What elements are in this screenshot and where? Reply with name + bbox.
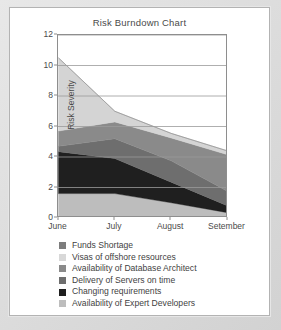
y-tick-mark (54, 125, 57, 126)
x-tick-mark (113, 217, 114, 220)
chart-card: Risk Burndown Chart Risk Severity 024681… (9, 7, 270, 316)
legend-item[interactable]: Availability of Database Architect (59, 263, 259, 275)
legend-swatch-icon (59, 254, 66, 261)
plot-area: Risk Severity 024681012 JuneJulyAugustSe… (57, 34, 227, 217)
plot-frame (57, 34, 227, 217)
y-tick-mark (54, 34, 57, 35)
y-tick-mark (54, 95, 57, 96)
legend-swatch-icon (59, 277, 66, 284)
legend-swatch-icon (59, 265, 66, 272)
y-tick-mark (54, 64, 57, 65)
legend-item-label: Availability of Expert Developers (72, 298, 195, 310)
legend-item[interactable]: Availability of Expert Developers (59, 298, 259, 310)
legend-item-label: Availability of Database Architect (72, 263, 197, 275)
legend-item[interactable]: Delivery of Servers on time (59, 275, 259, 287)
y-axis-label: Risk Severity (66, 50, 76, 160)
x-tick-mark (170, 217, 171, 220)
y-tick-label: 12 (33, 29, 53, 39)
x-tick-label: June (48, 221, 66, 231)
legend-item-label: Changing requirements (72, 286, 161, 298)
legend-swatch-icon (59, 300, 66, 307)
legend-item-label: Visas of offshore resources (72, 252, 176, 264)
y-tick-label: 6 (33, 121, 53, 131)
chart-legend: Funds ShortageVisas of offshore resource… (59, 240, 259, 310)
screenshot-root: Risk Burndown Chart Risk Severity 024681… (0, 0, 281, 330)
legend-swatch-icon (59, 289, 66, 296)
y-tick-label: 4 (33, 151, 53, 161)
legend-item[interactable]: Visas of offshore resources (59, 252, 259, 264)
y-tick-mark (54, 186, 57, 187)
x-tick-mark (226, 217, 227, 220)
legend-item[interactable]: Changing requirements (59, 286, 259, 298)
x-tick-mark (57, 217, 58, 220)
legend-item-label: Delivery of Servers on time (72, 275, 175, 287)
y-tick-label: 10 (33, 60, 53, 70)
x-tick-label: Setember (208, 221, 245, 231)
y-tick-label: 2 (33, 182, 53, 192)
stacked-area-series (58, 35, 227, 217)
legend-item-label: Funds Shortage (72, 240, 133, 252)
legend-swatch-icon (59, 242, 66, 249)
chart-title: Risk Burndown Chart (10, 17, 269, 28)
legend-item[interactable]: Funds Shortage (59, 240, 259, 252)
y-tick-label: 8 (33, 90, 53, 100)
x-tick-label: August (157, 221, 183, 231)
y-tick-mark (54, 156, 57, 157)
x-tick-label: July (106, 221, 121, 231)
